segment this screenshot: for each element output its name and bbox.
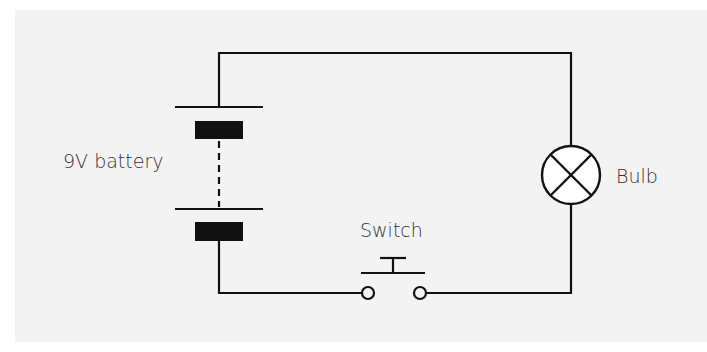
wire-right-bottom [426,204,571,293]
bulb-label: Bulb [616,167,658,186]
bulb-symbol [542,146,600,204]
battery-symbol [175,107,263,241]
switch-label: Switch [360,221,423,240]
circuit-diagram [0,0,707,352]
battery-negative-plate-1 [195,121,243,139]
switch-terminal-left [362,287,374,299]
wire-left-bottom [219,241,362,293]
wire-top [219,53,571,146]
switch-terminal-right [414,287,426,299]
battery-label: 9V battery [63,152,163,171]
battery-negative-plate-2 [195,222,243,241]
switch-symbol [361,258,426,299]
